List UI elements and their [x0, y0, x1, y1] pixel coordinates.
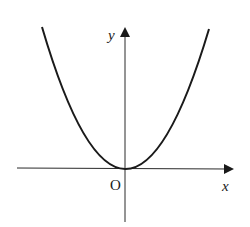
- y-axis-arrow-icon: [120, 27, 130, 37]
- y-axis-label: y: [106, 27, 115, 43]
- x-axis-label: x: [221, 178, 229, 194]
- origin-label: O: [110, 177, 121, 193]
- parabola-diagram: y O x: [0, 0, 250, 227]
- x-axis-arrow-icon: [224, 164, 234, 174]
